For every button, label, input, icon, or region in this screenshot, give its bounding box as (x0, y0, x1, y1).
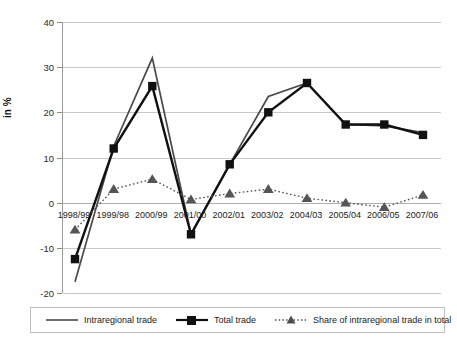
data-point-marker-square (110, 144, 118, 152)
data-point-marker-square (303, 79, 311, 87)
y-axis-tick-mark (57, 248, 62, 249)
chart-container: in % -20-10010203040 1998/991999/982000/… (0, 0, 457, 341)
gridline (63, 67, 441, 68)
y-axis-tick-label: 30 (14, 62, 54, 73)
gridline (63, 203, 441, 204)
series-line (75, 83, 423, 259)
x-axis-tick-label: 2002/01 (212, 210, 245, 220)
x-axis-tick-label: 2000/99 (135, 210, 168, 220)
x-axis-tick-label: 1999/98 (96, 210, 129, 220)
y-axis-title: in % (2, 97, 13, 118)
legend-line-square-icon (175, 314, 209, 326)
data-point-marker-square (148, 82, 156, 90)
legend-line-plain-icon (45, 314, 79, 326)
x-axis-tick-label: 2005/04 (328, 210, 361, 220)
x-axis-tick-label: 2004/03 (290, 210, 323, 220)
gridline (63, 158, 441, 159)
legend-label: Intraregional trade (84, 315, 157, 325)
y-axis-tick-mark (57, 67, 62, 68)
x-axis-tick-label: 1998/99 (58, 210, 91, 220)
y-axis-tick-label: -20 (14, 288, 54, 299)
legend-label: Share of intraregional trade in total (313, 315, 451, 325)
y-axis-tick-mark (57, 112, 62, 113)
plot-area (62, 22, 440, 293)
gridline (63, 112, 441, 113)
y-axis-tick-label: 40 (14, 17, 54, 28)
y-axis-tick-mark (57, 158, 62, 159)
x-axis-tick-label: 2003/02 (251, 210, 284, 220)
data-point-marker-square (226, 160, 234, 168)
data-point-marker-triangle (108, 184, 119, 193)
legend-label: Total trade (214, 315, 256, 325)
data-point-marker-triangle (418, 190, 429, 199)
data-point-marker-triangle (224, 189, 235, 198)
y-axis-tick-label: 10 (14, 152, 54, 163)
chart-legend: Intraregional trade Total trade Share of… (30, 307, 445, 333)
data-point-marker-square (71, 255, 79, 263)
y-axis-tick-mark (57, 22, 62, 23)
y-axis-tick-label: -10 (14, 242, 54, 253)
x-axis-tick-label: 2007/06 (406, 210, 439, 220)
x-axis-tick-label: 2006/05 (367, 210, 400, 220)
series-line (75, 179, 423, 230)
y-axis-tick-label: 20 (14, 107, 54, 118)
data-point-marker-square (342, 120, 350, 128)
data-point-marker-triangle (70, 225, 81, 234)
legend-item-intraregional-trade: Intraregional trade (45, 314, 157, 326)
data-point-marker-triangle (263, 184, 274, 193)
data-point-marker-square (419, 131, 427, 139)
data-point-marker-triangle (147, 174, 158, 183)
gridline (63, 22, 441, 23)
y-axis-tick-mark (57, 293, 62, 294)
y-axis-tick-mark (57, 203, 62, 204)
gridline (63, 293, 441, 294)
y-axis-tick-label: 0 (14, 197, 54, 208)
x-axis-tick-label: 2001/00 (174, 210, 207, 220)
data-point-marker-triangle (302, 193, 313, 202)
legend-line-dotted-triangle-icon (274, 314, 308, 326)
legend-item-total-trade: Total trade (175, 314, 256, 326)
data-point-marker-square (380, 120, 388, 128)
gridline (63, 248, 441, 249)
data-point-marker-square (187, 230, 195, 238)
legend-item-share-of-intraregional-trade: Share of intraregional trade in total (274, 314, 451, 326)
